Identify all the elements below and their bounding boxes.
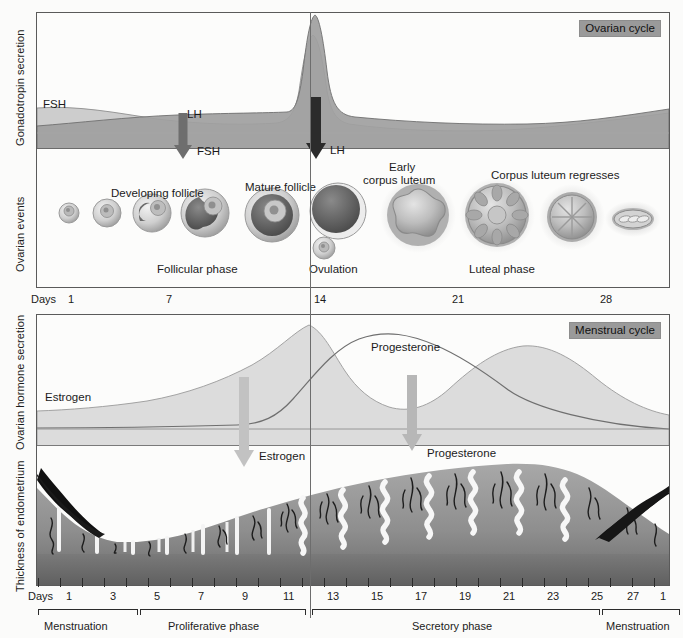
ovarian-day-tick-1: 1 [68, 293, 74, 305]
axis-label-ovarian-events: Ovarian events [14, 197, 26, 272]
label-ovulation: Ovulation [309, 263, 358, 275]
menstrual-day-tick-5: 5 [154, 590, 160, 602]
label-luteal-phase: Luteal phase [469, 263, 535, 275]
progesterone-arrow [401, 375, 423, 451]
menstrual-day-tick-3: 3 [110, 590, 116, 602]
label-secretory-phase: Secretory phase [412, 620, 492, 632]
menstrual-day-tick-9: 9 [242, 590, 248, 602]
ovarian-cycle-panel: FSH LH FSH LH [36, 12, 670, 288]
label-proliferative-phase: Proliferative phase [168, 620, 259, 632]
menstrual-day-tick-21: 21 [503, 590, 515, 602]
gonadotropin-curves [37, 13, 669, 149]
label-early-corpus-luteum-line2: corpus luteum [363, 174, 435, 186]
menstrual-day-tick-25: 25 [591, 590, 603, 602]
ovarian-day-tick-14: 14 [314, 293, 326, 305]
menstrual-day-tick-15: 15 [371, 590, 383, 602]
bracket-proliferative [140, 609, 306, 615]
menstrual-cycle-panel: Estrogen Progesterone Estrogen Progester… [36, 314, 670, 586]
ovulation-reference-line [310, 12, 311, 618]
axis-label-ovarian-hormone-secretion: Ovarian hormone secretion [14, 315, 26, 450]
bracket-menstruation-end [602, 609, 680, 615]
menstrual-day-tick-17: 17 [415, 590, 427, 602]
menstrual-day-tick-11: 11 [283, 590, 294, 602]
axis-label-thickness-of-endometrium: Thickness of endometrium [14, 461, 26, 592]
label-menstruation-start: Menstruation [44, 620, 108, 632]
bracket-secretory [312, 609, 600, 615]
endometrium-illustration [37, 446, 669, 585]
ovarian-day-tick-21: 21 [452, 293, 464, 305]
menstrual-day-tick-27: 27 [627, 590, 639, 602]
label-menstruation-end: Menstruation [606, 620, 670, 632]
ovarian-cycle-badge: Ovarian cycle [579, 20, 661, 37]
ovarian-day-tick-28: 28 [600, 293, 612, 305]
label-mature-follicle: Mature follicle [245, 181, 316, 193]
menstrual-day-tick-next-1: 1 [660, 590, 666, 602]
estrogen-curve-label: Estrogen [45, 391, 91, 403]
label-early-corpus-luteum-line1: Early [389, 161, 415, 173]
label-corpus-luteum-regresses: Corpus luteum regresses [491, 169, 619, 181]
endometrium-tick-row [36, 578, 670, 587]
menstrual-day-tick-23: 23 [547, 590, 559, 602]
menstrual-day-tick-13: 13 [327, 590, 339, 602]
fsh-curve-label: FSH [43, 98, 66, 110]
ovarian-day-tick-7: 7 [166, 293, 172, 305]
menstrual-days-label: Days [28, 590, 53, 602]
ovarian-days-label: Days [31, 293, 56, 305]
menstrual-day-tick-7: 7 [198, 590, 204, 602]
menstrual-day-tick-1: 1 [66, 590, 72, 602]
menstrual-day-tick-19: 19 [459, 590, 471, 602]
cycle-figure: Gonadotropin secretion Ovarian events FS… [0, 0, 683, 638]
label-developing-follicle: Developing follicle [111, 187, 204, 199]
menstrual-cycle-badge: Menstrual cycle [569, 322, 661, 339]
axis-label-gonadotropin-secretion: Gonadotropin secretion [14, 29, 26, 146]
label-follicular-phase: Follicular phase [157, 263, 238, 275]
bracket-menstruation-start [38, 609, 138, 615]
progesterone-curve-label: Progesterone [371, 341, 440, 353]
